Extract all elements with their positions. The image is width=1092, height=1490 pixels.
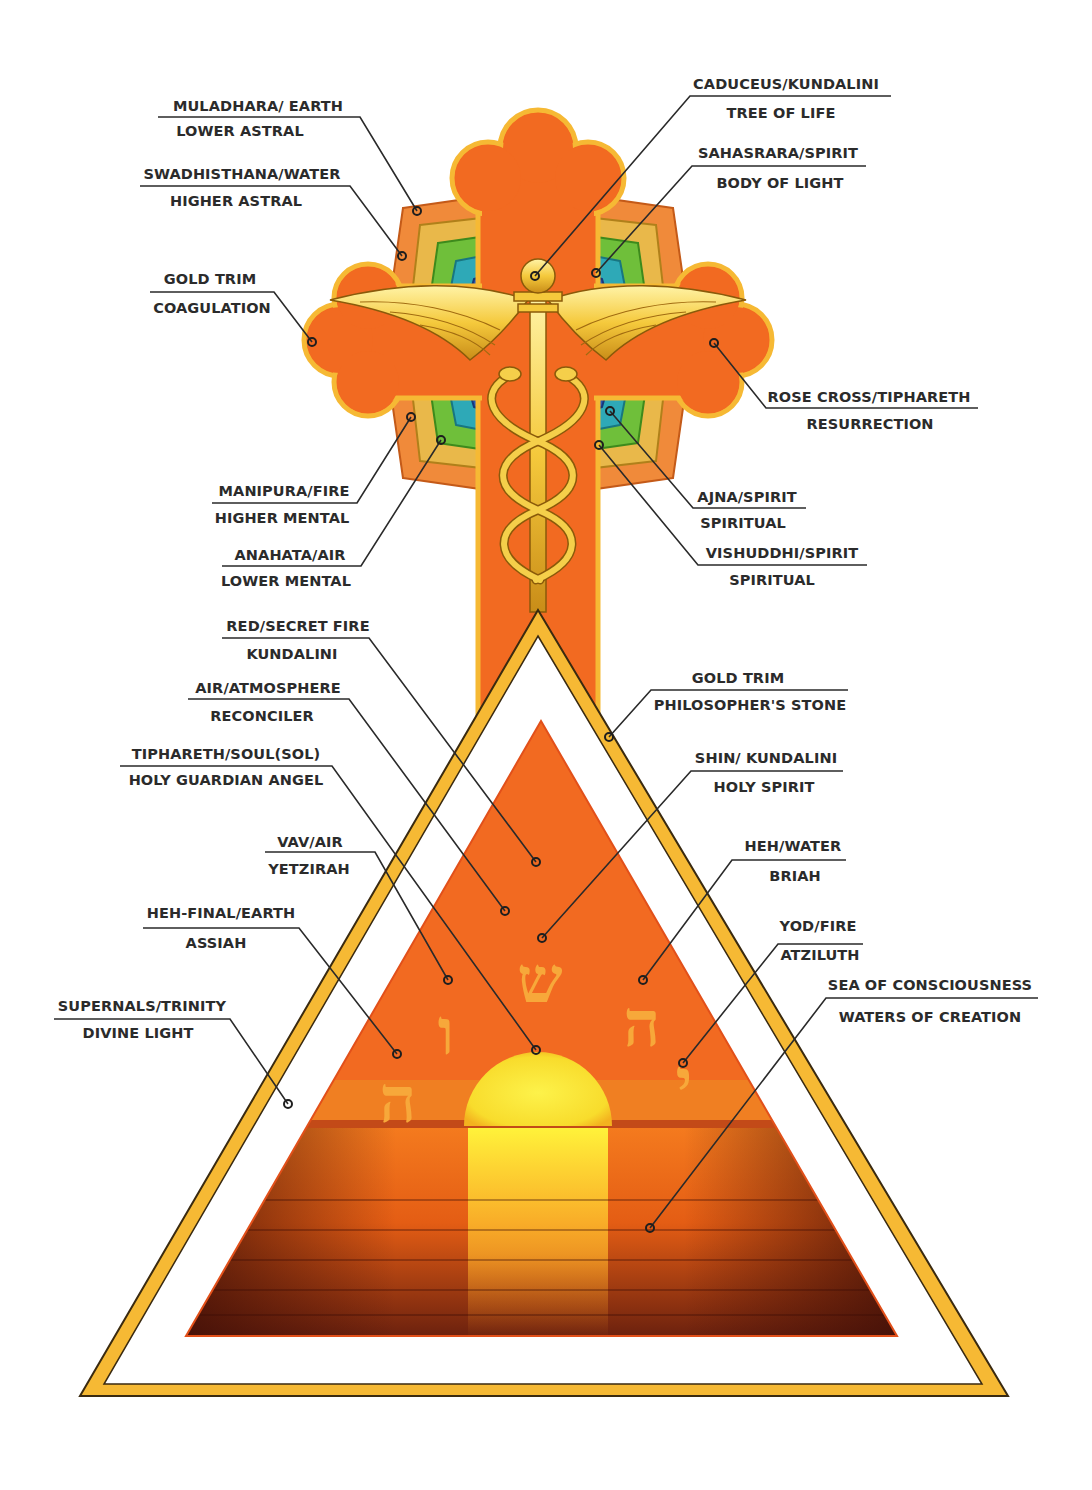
svg-text:VISHUDDHI/SPIRIT: VISHUDDHI/SPIRIT [706, 545, 858, 561]
svg-text:COAGULATION: COAGULATION [153, 300, 271, 316]
svg-text:HEH-FINAL/EARTH: HEH-FINAL/EARTH [147, 905, 296, 921]
svg-text:HIGHER ASTRAL: HIGHER ASTRAL [170, 193, 302, 209]
svg-text:MANIPURA/FIRE: MANIPURA/FIRE [219, 483, 350, 499]
svg-text:SPIRITUAL: SPIRITUAL [729, 572, 815, 588]
hebrew-shin-letter: ש [517, 942, 562, 1017]
svg-text:AJNA/SPIRIT: AJNA/SPIRIT [697, 489, 796, 505]
svg-text:TIPHARETH/SOUL(SOL): TIPHARETH/SOUL(SOL) [132, 746, 321, 762]
svg-text:SPIRITUAL: SPIRITUAL [700, 515, 786, 531]
label-muladhara: MULADHARA/ EARTH LOWER ASTRAL [173, 98, 343, 139]
hebrew-heh-letter: ה [624, 986, 661, 1061]
svg-text:YOD/FIRE: YOD/FIRE [779, 918, 857, 934]
label-vav-air: VAV/AIR YETZIRAH [267, 834, 350, 877]
label-heh-water: HEH/WATER BRIAH [745, 838, 842, 884]
svg-text:CADUCEUS/KUNDALINI: CADUCEUS/KUNDALINI [693, 76, 879, 92]
svg-text:ASSIAH: ASSIAH [186, 935, 247, 951]
label-air-atmosphere: AIR/ATMOSPHERE RECONCILER [195, 680, 340, 724]
svg-text:MULADHARA/ EARTH: MULADHARA/ EARTH [173, 98, 343, 114]
svg-text:ATZILUTH: ATZILUTH [780, 947, 859, 963]
inner-fire-triangle: ש ו ה ה י [180, 715, 900, 1338]
label-manipura: MANIPURA/FIRE HIGHER MENTAL [215, 483, 350, 526]
svg-text:GOLD TRIM: GOLD TRIM [692, 670, 784, 686]
label-gold-trim-cross: GOLD TRIM COAGULATION [153, 271, 271, 316]
svg-text:KUNDALINI: KUNDALINI [246, 646, 337, 662]
label-vishuddhi: VISHUDDHI/SPIRIT SPIRITUAL [706, 545, 858, 588]
svg-text:HIGHER MENTAL: HIGHER MENTAL [215, 510, 350, 526]
label-red-secret-fire: RED/SECRET FIRE KUNDALINI [226, 618, 369, 662]
rose-cross-triangle-diagram: ש ו ה ה י [0, 0, 1092, 1490]
svg-text:WATERS OF CREATION: WATERS OF CREATION [839, 1009, 1022, 1025]
svg-text:AIR/ATMOSPHERE: AIR/ATMOSPHERE [195, 680, 340, 696]
label-ajna: AJNA/SPIRIT SPIRITUAL [697, 489, 796, 531]
label-swadhisthana: SWADHISTHANA/WATER HIGHER ASTRAL [143, 166, 340, 209]
svg-text:LOWER ASTRAL: LOWER ASTRAL [176, 123, 304, 139]
label-yod-fire: YOD/FIRE ATZILUTH [779, 918, 860, 963]
label-gold-trim-triangle: GOLD TRIM PHILOSOPHER'S STONE [654, 670, 846, 713]
hebrew-vav-letter: ו [438, 994, 454, 1069]
label-rose-cross: ROSE CROSS/TIPHARETH RESURRECTION [768, 389, 971, 432]
svg-text:HEH/WATER: HEH/WATER [745, 838, 842, 854]
label-tiphareth-soul: TIPHARETH/SOUL(SOL) HOLY GUARDIAN ANGEL [129, 746, 324, 788]
svg-text:BODY OF LIGHT: BODY OF LIGHT [716, 175, 843, 191]
svg-text:GOLD TRIM: GOLD TRIM [164, 271, 256, 287]
svg-text:SWADHISTHANA/WATER: SWADHISTHANA/WATER [143, 166, 340, 182]
svg-text:RED/SECRET FIRE: RED/SECRET FIRE [226, 618, 369, 634]
svg-text:SAHASRARA/SPIRIT: SAHASRARA/SPIRIT [698, 145, 858, 161]
label-caduceus: CADUCEUS/KUNDALINI TREE OF LIFE [693, 76, 879, 121]
svg-text:ROSE CROSS/TIPHARETH: ROSE CROSS/TIPHARETH [768, 389, 971, 405]
svg-text:VAV/AIR: VAV/AIR [277, 834, 342, 850]
svg-text:LOWER MENTAL: LOWER MENTAL [221, 573, 351, 589]
svg-text:DIVINE LIGHT: DIVINE LIGHT [83, 1025, 194, 1041]
svg-text:ANAHATA/AIR: ANAHATA/AIR [235, 547, 346, 563]
label-anahata: ANAHATA/AIR LOWER MENTAL [221, 547, 351, 589]
label-shin-kundalini: SHIN/ KUNDALINI HOLY SPIRIT [695, 750, 837, 795]
caduceus [330, 259, 746, 612]
svg-text:PHILOSOPHER'S STONE: PHILOSOPHER'S STONE [654, 697, 846, 713]
svg-text:RECONCILER: RECONCILER [210, 708, 314, 724]
svg-text:HOLY GUARDIAN ANGEL: HOLY GUARDIAN ANGEL [129, 772, 324, 788]
svg-text:TREE OF LIFE: TREE OF LIFE [727, 105, 836, 121]
svg-text:SHIN/ KUNDALINI: SHIN/ KUNDALINI [695, 750, 837, 766]
label-sahasrara: SAHASRARA/SPIRIT BODY OF LIGHT [698, 145, 858, 191]
svg-text:SEA OF CONSCIOUSNESS: SEA OF CONSCIOUSNESS [828, 977, 1032, 993]
svg-text:RESURRECTION: RESURRECTION [806, 416, 933, 432]
svg-text:HOLY SPIRIT: HOLY SPIRIT [713, 779, 814, 795]
label-sea-of-consciousness: SEA OF CONSCIOUSNESS WATERS OF CREATION [828, 977, 1032, 1025]
svg-text:SUPERNALS/TRINITY: SUPERNALS/TRINITY [58, 998, 227, 1014]
svg-text:BRIAH: BRIAH [769, 868, 820, 884]
svg-text:YETZIRAH: YETZIRAH [267, 861, 350, 877]
hebrew-heh-final-letter: ה [380, 1062, 417, 1137]
